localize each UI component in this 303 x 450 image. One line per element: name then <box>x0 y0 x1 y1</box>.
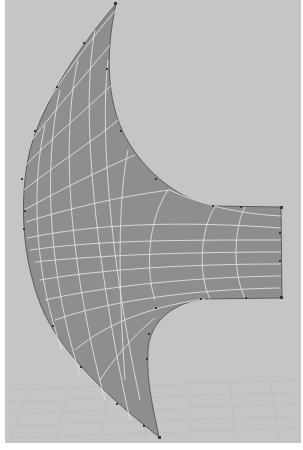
nurbs-surface[interactable] <box>21 2 283 439</box>
viewport-canvas[interactable] <box>5 0 301 443</box>
3d-viewport[interactable] <box>5 0 301 443</box>
surface-shape[interactable] <box>23 4 282 437</box>
